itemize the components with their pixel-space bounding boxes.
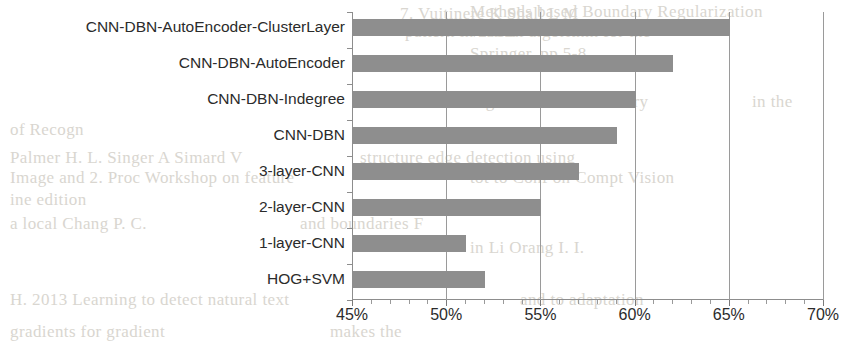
- x-tick-minor: [427, 300, 428, 304]
- y-tick: [347, 264, 352, 265]
- x-tick-minor: [672, 300, 673, 304]
- x-tick-minor: [465, 300, 466, 304]
- x-tick-minor: [710, 300, 711, 304]
- category-label: HOG+SVM: [0, 271, 345, 287]
- category-label: 3-layer-CNN: [0, 163, 345, 179]
- bar: [353, 91, 636, 108]
- gridline-65%: [729, 12, 730, 300]
- category-label: CNN-DBN-Indegree: [0, 91, 345, 107]
- x-tick-minor: [390, 300, 391, 304]
- category-label: CNN-DBN-AutoEncoder-ClusterLayer: [0, 19, 345, 35]
- x-tick-label: 55%: [524, 306, 556, 324]
- x-tick-minor: [484, 300, 485, 304]
- bar: [353, 235, 466, 252]
- x-tick-minor: [559, 300, 560, 304]
- x-tick-label: 45%: [336, 306, 368, 324]
- y-tick: [347, 120, 352, 121]
- y-tick: [347, 156, 352, 157]
- y-tick: [347, 228, 352, 229]
- x-tick-minor: [748, 300, 749, 304]
- y-tick: [347, 84, 352, 85]
- x-tick-label: 70%: [807, 306, 839, 324]
- x-tick-label: 65%: [713, 306, 745, 324]
- category-label: 2-layer-CNN: [0, 199, 345, 215]
- x-tick-minor: [691, 300, 692, 304]
- x-tick-minor: [409, 300, 410, 304]
- x-axis-line: [352, 299, 823, 300]
- x-tick-minor: [578, 300, 579, 304]
- category-label: CNN-DBN-AutoEncoder: [0, 55, 345, 71]
- x-tick-minor: [616, 300, 617, 304]
- x-tick-label: 60%: [619, 306, 651, 324]
- bar: [353, 271, 485, 288]
- x-tick-minor: [371, 300, 372, 304]
- x-tick-minor: [653, 300, 654, 304]
- y-tick: [347, 12, 352, 13]
- x-tick-minor: [785, 300, 786, 304]
- x-tick-minor: [766, 300, 767, 304]
- category-axis-labels: CNN-DBN-AutoEncoder-ClusterLayerCNN-DBN-…: [0, 12, 345, 292]
- y-tick: [347, 48, 352, 49]
- bar-chart: CNN-DBN-AutoEncoder-ClusterLayerCNN-DBN-…: [0, 0, 858, 349]
- x-tick-minor: [522, 300, 523, 304]
- figure-page: Methods based Boundary Regularization7. …: [0, 0, 858, 349]
- bar: [353, 127, 617, 144]
- x-tick-minor: [597, 300, 598, 304]
- y-tick: [347, 300, 352, 301]
- x-axis-tick-labels: 45%50%55%60%65%70%: [352, 306, 852, 334]
- bar: [353, 55, 673, 72]
- x-tick-minor: [804, 300, 805, 304]
- category-label: CNN-DBN: [0, 127, 345, 143]
- bar: [353, 19, 730, 36]
- plot-area: [352, 12, 823, 300]
- x-tick-minor: [503, 300, 504, 304]
- y-tick: [347, 192, 352, 193]
- bar: [353, 163, 579, 180]
- category-label: 1-layer-CNN: [0, 235, 345, 251]
- gridline-70%: [823, 12, 824, 300]
- x-tick-label: 50%: [430, 306, 462, 324]
- bar: [353, 199, 541, 216]
